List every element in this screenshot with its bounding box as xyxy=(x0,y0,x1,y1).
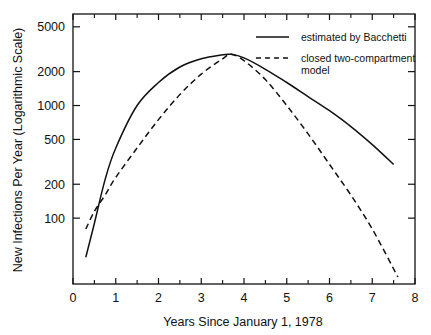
y-tick-label: 500 xyxy=(44,133,65,147)
y-tick-label: 1000 xyxy=(37,99,65,113)
legend-label: closed two-compartment xyxy=(301,52,415,64)
y-tick-label: 200 xyxy=(44,178,65,192)
x-tick-label: 4 xyxy=(241,291,248,305)
x-tick-label: 0 xyxy=(70,291,77,305)
x-tick-label: 6 xyxy=(326,291,333,305)
data-series xyxy=(86,54,398,277)
series-estimated-by-bacchetti xyxy=(86,54,394,257)
x-tick-label: 7 xyxy=(369,291,376,305)
legend-label: estimated by Bacchetti xyxy=(301,31,407,43)
y-tick-label: 100 xyxy=(44,212,65,226)
x-axis-title: Years Since January 1, 1978 xyxy=(163,315,322,329)
legend-label: model xyxy=(301,64,330,76)
x-tick-label: 1 xyxy=(112,291,119,305)
y-axis-title: New Infections Per Year (Logarithmic Sca… xyxy=(11,28,25,273)
x-tick-label: 5 xyxy=(283,291,290,305)
y-tick-label: 2000 xyxy=(37,65,65,79)
y-tick-label: 5000 xyxy=(37,20,65,34)
legend: estimated by Bacchetticlosed two-compart… xyxy=(256,31,415,76)
x-tick-label: 3 xyxy=(198,291,205,305)
x-tick-label: 2 xyxy=(155,291,162,305)
x-tick-label: 8 xyxy=(412,291,419,305)
line-chart: 012345678100200500100020005000 estimated… xyxy=(0,0,431,335)
series-closed-two-compartment-model xyxy=(86,54,398,277)
